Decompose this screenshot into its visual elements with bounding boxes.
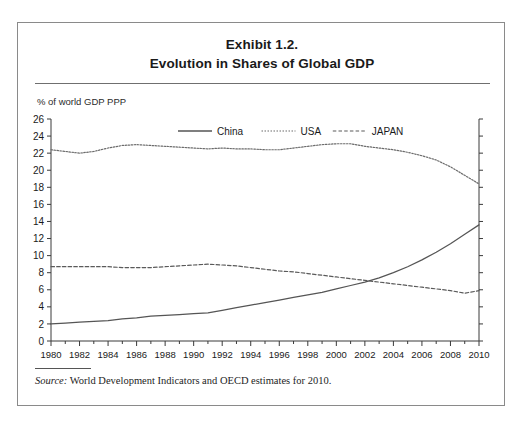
plot-area: 0246810121416182022242619801982198419861… bbox=[18, 23, 506, 407]
source-note: Source: World Development Indicators and… bbox=[35, 375, 331, 386]
series-line-china bbox=[51, 225, 479, 324]
x-tick-label: 2004 bbox=[383, 349, 404, 360]
x-tick-label: 1994 bbox=[240, 349, 261, 360]
x-tick-label: 1982 bbox=[69, 349, 90, 360]
x-tick-label: 1988 bbox=[155, 349, 176, 360]
x-tick-label: 1986 bbox=[126, 349, 147, 360]
source-divider bbox=[35, 368, 91, 369]
y-tick-label: 22 bbox=[33, 148, 45, 159]
source-text: World Development Indicators and OECD es… bbox=[67, 375, 331, 386]
y-tick-label: 4 bbox=[38, 301, 44, 312]
x-tick-label: 2010 bbox=[468, 349, 489, 360]
y-tick-label: 2 bbox=[38, 319, 44, 330]
x-tick-label: 1992 bbox=[212, 349, 233, 360]
x-tick-label: 1996 bbox=[269, 349, 290, 360]
x-tick-label: 1984 bbox=[97, 349, 118, 360]
y-tick-label: 16 bbox=[33, 199, 45, 210]
y-tick-label: 12 bbox=[33, 233, 45, 244]
y-tick-label: 20 bbox=[33, 165, 45, 176]
y-tick-label: 0 bbox=[38, 336, 44, 347]
legend-label-usa: USA bbox=[301, 126, 322, 137]
y-tick-label: 18 bbox=[33, 182, 45, 193]
x-tick-label: 2006 bbox=[411, 349, 432, 360]
x-tick-label: 1998 bbox=[297, 349, 318, 360]
series-line-usa bbox=[51, 144, 479, 184]
figure-frame: Exhibit 1.2. Evolution in Shares of Glob… bbox=[17, 22, 505, 406]
legend-label-china: China bbox=[217, 126, 244, 137]
x-tick-label: 2002 bbox=[354, 349, 375, 360]
y-tick-label: 14 bbox=[33, 216, 45, 227]
x-tick-label: 2000 bbox=[326, 349, 347, 360]
x-tick-label: 1980 bbox=[40, 349, 61, 360]
y-tick-label: 6 bbox=[38, 284, 44, 295]
x-tick-label: 1990 bbox=[183, 349, 204, 360]
y-tick-label: 24 bbox=[33, 131, 45, 142]
source-label: Source: bbox=[35, 375, 67, 386]
figure-root: Exhibit 1.2. Evolution in Shares of Glob… bbox=[0, 0, 528, 428]
y-tick-label: 8 bbox=[38, 267, 44, 278]
x-tick-label: 2008 bbox=[440, 349, 461, 360]
legend-label-japan: JAPAN bbox=[372, 126, 404, 137]
y-tick-label: 10 bbox=[33, 250, 45, 261]
series-line-japan bbox=[51, 264, 479, 293]
y-tick-label: 26 bbox=[33, 114, 45, 125]
line-chart: 0246810121416182022242619801982198419861… bbox=[18, 23, 506, 407]
